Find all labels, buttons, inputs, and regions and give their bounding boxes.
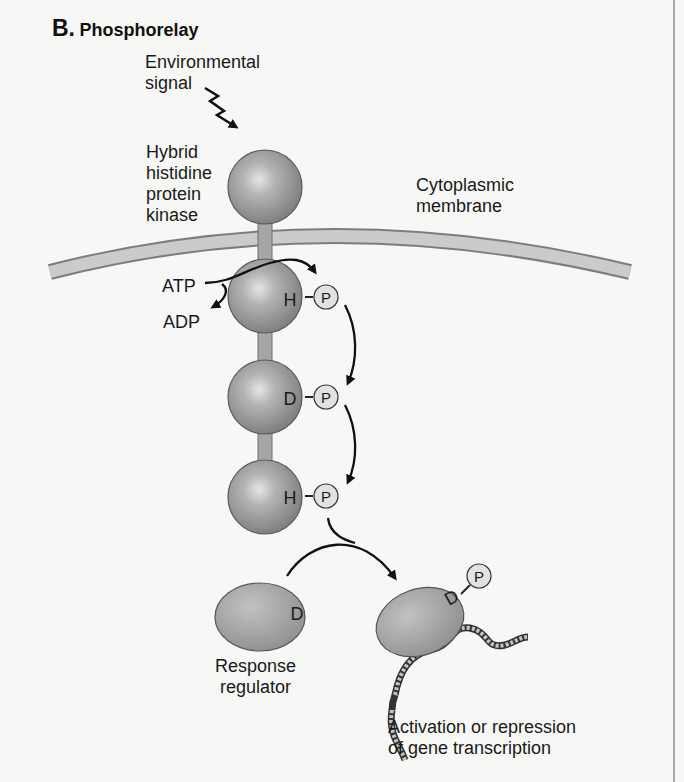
relay-arrow-2 xyxy=(345,405,355,482)
residue-h-2: H xyxy=(284,488,297,509)
transfer-to-regulator-arrow xyxy=(287,545,395,578)
phosphate-label-2: P xyxy=(321,389,331,406)
adp-label: ADP xyxy=(163,312,200,333)
relay-arrow-1 xyxy=(345,305,355,383)
regulator-phosphate-label: P xyxy=(474,568,484,585)
residue-d: D xyxy=(284,389,297,410)
panel-letter: B. xyxy=(52,15,75,41)
regulator-residue-d: D xyxy=(291,604,304,625)
sensor-domain-sphere xyxy=(228,150,302,224)
atp-label: ATP xyxy=(162,276,196,297)
phosphate-label-1: P xyxy=(321,289,331,306)
residue-h-1: H xyxy=(284,290,297,311)
phosphorelay-diagram xyxy=(0,0,684,782)
phosphate-label-3: P xyxy=(321,488,331,505)
hybrid-kinase-label: Hybrid histidine protein kinase xyxy=(146,142,212,226)
adp-release-arrow xyxy=(213,284,226,307)
panel-title: Phosphorelay xyxy=(79,20,198,40)
membrane-label: Cytoplasmic membrane xyxy=(416,175,514,217)
response-regulator-label: Response regulator xyxy=(215,656,296,698)
environmental-signal-label: Environmental signal xyxy=(145,52,260,94)
cytoplasmic-membrane xyxy=(50,236,630,272)
response-regulator-active xyxy=(366,576,473,669)
figure-title: B. Phosphorelay xyxy=(52,15,198,42)
gene-transcription-label: Activation or repression of gene transcr… xyxy=(388,717,576,759)
